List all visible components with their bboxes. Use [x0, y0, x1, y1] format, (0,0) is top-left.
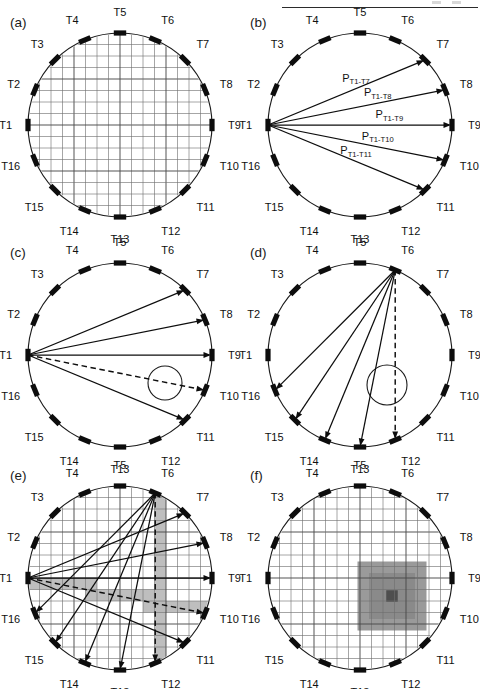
transducer-T11[interactable] [179, 184, 191, 196]
transducer-body[interactable] [270, 313, 280, 326]
transducer-T11[interactable] [179, 414, 191, 426]
transducer-body[interactable] [289, 54, 301, 66]
transducer-T13[interactable] [354, 214, 366, 219]
transducer-body[interactable] [354, 30, 366, 35]
transducer-T13[interactable] [114, 667, 126, 672]
transducer-T4[interactable] [318, 35, 331, 45]
transducer-T16[interactable] [30, 153, 40, 166]
transducer-T2[interactable] [270, 83, 280, 96]
transducer-body[interactable] [209, 349, 214, 361]
transducer-body[interactable] [30, 383, 40, 396]
transducer-body[interactable] [200, 83, 210, 96]
transducer-T13[interactable] [354, 444, 366, 449]
transducer-T1[interactable] [265, 349, 270, 361]
transducer-T1[interactable] [25, 119, 30, 131]
transducer-body[interactable] [440, 606, 450, 619]
transducer-T9[interactable] [449, 119, 454, 131]
transducer-body[interactable] [354, 483, 366, 488]
transducer-body[interactable] [148, 265, 161, 275]
transducer-body[interactable] [179, 507, 191, 519]
transducer-T4[interactable] [318, 265, 331, 275]
transducer-T3[interactable] [289, 507, 301, 519]
transducer-body[interactable] [209, 572, 214, 584]
transducer-T2[interactable] [30, 313, 40, 326]
transducer-T16[interactable] [30, 383, 40, 396]
transducer-T13[interactable] [354, 667, 366, 672]
transducer-body[interactable] [49, 414, 61, 426]
transducer-T1[interactable] [265, 572, 270, 584]
transducer-body[interactable] [209, 119, 214, 131]
transducer-body[interactable] [270, 83, 280, 96]
transducer-T10[interactable] [440, 383, 450, 396]
transducer-T15[interactable] [289, 184, 301, 196]
transducer-body[interactable] [114, 260, 126, 265]
transducer-body[interactable] [354, 214, 366, 219]
transducer-T6[interactable] [388, 488, 401, 498]
transducer-body[interactable] [318, 658, 331, 668]
transducer-T9[interactable] [209, 572, 214, 584]
transducer-T7[interactable] [419, 507, 431, 519]
transducer-body[interactable] [114, 483, 126, 488]
transducer-body[interactable] [289, 507, 301, 519]
transducer-body[interactable] [289, 637, 301, 649]
transducer-T15[interactable] [49, 184, 61, 196]
transducer-body[interactable] [318, 35, 331, 45]
transducer-body[interactable] [318, 265, 331, 275]
transducer-T10[interactable] [440, 606, 450, 619]
transducer-body[interactable] [25, 572, 30, 584]
transducer-body[interactable] [49, 184, 61, 196]
transducer-body[interactable] [78, 205, 91, 215]
transducer-T9[interactable] [449, 572, 454, 584]
transducer-T7[interactable] [179, 54, 191, 66]
transducer-body[interactable] [148, 435, 161, 445]
transducer-T7[interactable] [419, 284, 431, 296]
transducer-body[interactable] [318, 205, 331, 215]
transducer-body[interactable] [30, 536, 40, 549]
transducer-T5[interactable] [354, 260, 366, 265]
transducer-T4[interactable] [78, 488, 91, 498]
transducer-body[interactable] [179, 54, 191, 66]
transducer-T11[interactable] [419, 184, 431, 196]
transducer-body[interactable] [354, 260, 366, 265]
transducer-T16[interactable] [270, 606, 280, 619]
transducer-T5[interactable] [114, 483, 126, 488]
transducer-body[interactable] [270, 606, 280, 619]
transducer-T14[interactable] [78, 205, 91, 215]
transducer-body[interactable] [449, 119, 454, 131]
transducer-body[interactable] [78, 265, 91, 275]
transducer-T3[interactable] [49, 284, 61, 296]
transducer-body[interactable] [388, 658, 401, 668]
transducer-T7[interactable] [419, 54, 431, 66]
transducer-T5[interactable] [114, 260, 126, 265]
transducer-T1[interactable] [25, 572, 30, 584]
transducer-T12[interactable] [148, 205, 161, 215]
transducer-T15[interactable] [289, 637, 301, 649]
transducer-body[interactable] [419, 637, 431, 649]
transducer-T5[interactable] [354, 483, 366, 488]
transducer-T4[interactable] [78, 265, 91, 275]
transducer-body[interactable] [179, 414, 191, 426]
transducer-T5[interactable] [354, 30, 366, 35]
transducer-T4[interactable] [78, 35, 91, 45]
transducer-T11[interactable] [419, 637, 431, 649]
transducer-body[interactable] [419, 184, 431, 196]
transducer-body[interactable] [49, 507, 61, 519]
transducer-body[interactable] [114, 667, 126, 672]
transducer-body[interactable] [25, 349, 30, 361]
transducer-body[interactable] [179, 284, 191, 296]
transducer-T3[interactable] [289, 54, 301, 66]
transducer-body[interactable] [265, 572, 270, 584]
transducer-T3[interactable] [289, 284, 301, 296]
transducer-body[interactable] [78, 35, 91, 45]
transducer-body[interactable] [449, 349, 454, 361]
transducer-body[interactable] [388, 205, 401, 215]
transducer-body[interactable] [49, 54, 61, 66]
transducer-T9[interactable] [449, 349, 454, 361]
transducer-T16[interactable] [270, 153, 280, 166]
transducer-T4[interactable] [318, 488, 331, 498]
transducer-body[interactable] [265, 119, 270, 131]
transducer-T11[interactable] [179, 637, 191, 649]
transducer-T7[interactable] [179, 507, 191, 519]
transducer-T5[interactable] [114, 30, 126, 35]
transducer-T12[interactable] [388, 205, 401, 215]
